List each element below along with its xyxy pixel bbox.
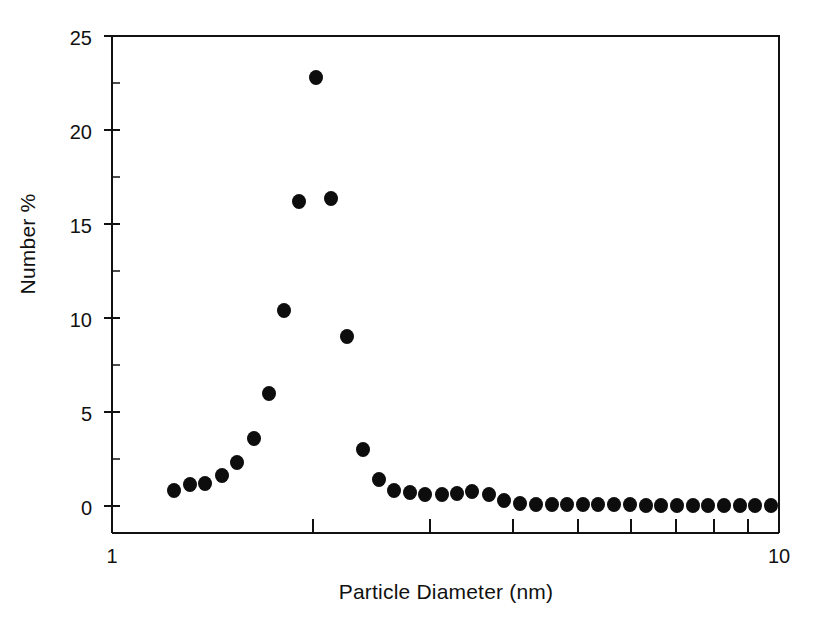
x-tick-label-1: 1 (87, 546, 137, 566)
data-point (529, 497, 543, 512)
y-tick-label-20: 20 (46, 122, 92, 142)
data-point (701, 498, 715, 513)
data-point (277, 303, 291, 318)
data-point (215, 468, 229, 483)
data-point (560, 497, 574, 512)
data-point (748, 498, 762, 513)
plot-box-border (112, 36, 779, 506)
plot-frame-and-axes (0, 0, 822, 630)
y-axis-minor-ticks (112, 83, 120, 459)
x-tick-label-10: 10 (754, 546, 804, 566)
data-point (654, 498, 668, 513)
data-point (247, 431, 261, 446)
data-point (482, 487, 496, 502)
data-point (764, 498, 778, 513)
data-point (576, 497, 590, 512)
data-point (497, 493, 511, 508)
data-point (262, 386, 276, 401)
data-point (183, 477, 197, 492)
data-point (387, 483, 401, 498)
data-point (167, 483, 181, 498)
x-axis-title: Particle Diameter (nm) (112, 580, 780, 604)
y-tick-label-5: 5 (46, 404, 92, 424)
y-tick-label-10: 10 (46, 310, 92, 330)
y-tick-label-25: 25 (46, 28, 92, 48)
data-point (545, 497, 559, 512)
data-point (670, 498, 684, 513)
data-point (435, 487, 449, 502)
x-axis-ticks (112, 519, 779, 533)
data-point (717, 498, 731, 513)
data-point (733, 498, 747, 513)
y-tick-label-0: 0 (46, 498, 92, 518)
y-axis-title: Number % (16, 164, 40, 324)
data-point (372, 472, 386, 487)
data-point (623, 497, 637, 512)
chart-figure: Number % Particle Diameter (nm) 25 20 15… (0, 0, 822, 630)
data-point (686, 498, 700, 513)
data-point (309, 70, 323, 85)
data-point (639, 498, 653, 513)
y-tick-label-15: 15 (46, 216, 92, 236)
